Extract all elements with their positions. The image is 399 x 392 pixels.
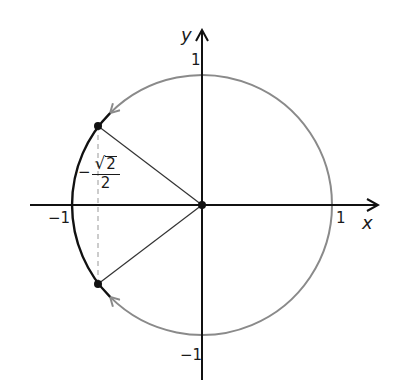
x-tick-positive-one: 1	[336, 211, 346, 226]
y-axis-label: y	[181, 26, 192, 44]
y-tick-positive-one: 1	[191, 53, 201, 68]
origin-point	[198, 201, 206, 209]
neg-sqrt2-over-2-label: − √ 2 2	[78, 155, 120, 191]
x-tick-negative-one: −1	[48, 211, 70, 226]
traced-arc-lower	[110, 205, 332, 335]
point-135deg	[94, 122, 102, 130]
minus-sign: −	[78, 163, 91, 181]
point-225deg	[94, 280, 102, 288]
traced-arc-upper	[110, 75, 332, 205]
x-axis-label: x	[362, 214, 373, 232]
denominator: 2	[101, 176, 111, 191]
radius-line-lower	[98, 205, 202, 284]
radical-sign: √	[94, 155, 105, 172]
y-tick-negative-one: −1	[180, 348, 202, 363]
radicand: 2	[105, 156, 117, 172]
